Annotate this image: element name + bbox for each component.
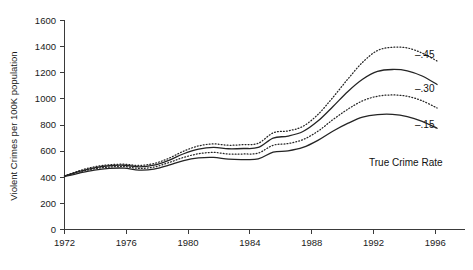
figure-container: Violent Crimes per 100K population 1600 …: [0, 0, 473, 270]
y-tick-label: 400: [40, 172, 56, 183]
series-label-minus-15: –.15: [415, 119, 435, 130]
y-axis-title: Violent Crimes per 100K population: [8, 51, 19, 200]
series-label-minus-30: –.30: [415, 83, 435, 94]
x-tick-label: 1988: [301, 237, 322, 248]
y-tick-label: 1400: [35, 41, 56, 52]
y-tick-label: 600: [40, 145, 56, 156]
y-tick-label: 1600: [35, 15, 56, 26]
x-tick-group: [65, 230, 436, 235]
y-tick-label: 200: [40, 198, 56, 209]
x-tick-label: 1976: [116, 237, 137, 248]
series-label-group: –.45 –.30 –.15 True Crime Rate: [369, 49, 443, 168]
series-label-true-crime-rate: True Crime Rate: [369, 157, 443, 168]
y-tick-labels: 1600 1400 1200 1000 800 600 400 200 0: [35, 15, 56, 235]
y-tick-label: 1200: [35, 67, 56, 78]
caption-strip: [0, 261, 473, 270]
x-tick-label: 1996: [425, 237, 446, 248]
y-tick-label: 0: [51, 224, 56, 235]
x-tick-label: 1992: [363, 237, 384, 248]
line-chart: Violent Crimes per 100K population 1600 …: [0, 0, 473, 270]
x-tick-label: 1972: [54, 237, 75, 248]
y-tick-group: [60, 21, 65, 230]
series-label-minus-45: –.45: [415, 49, 435, 60]
y-tick-label: 800: [40, 119, 56, 130]
x-tick-labels: 1972 1976 1980 1984 1988 1992 1996: [54, 237, 446, 248]
x-tick-label: 1984: [239, 237, 260, 248]
y-tick-label: 1000: [35, 93, 56, 104]
x-tick-label: 1980: [178, 237, 199, 248]
